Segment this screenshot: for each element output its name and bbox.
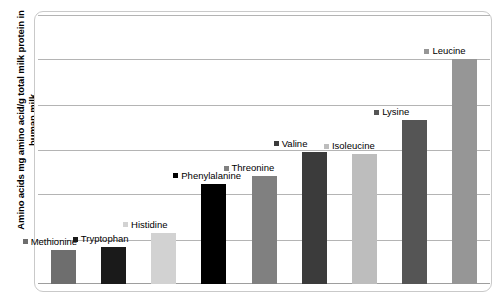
bar-leucine[interactable] (452, 59, 477, 284)
bar-label-text: Lysine (382, 107, 409, 117)
bar-label-leucine: Leucine (424, 46, 465, 56)
bar-label-lysine: Lysine (374, 107, 409, 117)
legend-swatch-icon (274, 141, 279, 146)
bar-label-histidine: Histidine (123, 220, 167, 230)
legend-swatch-icon (73, 237, 78, 242)
bar-label-isoleucine: Isoleucine (324, 141, 375, 151)
gridline (38, 59, 490, 60)
legend-swatch-icon (23, 239, 28, 244)
plot-area: MethionineTryptophanHistidinePhenylalani… (38, 15, 490, 284)
bar-label-text: Threonine (232, 163, 275, 173)
bar-phenylalanine[interactable] (201, 184, 226, 284)
bar-label-text: Leucine (432, 46, 465, 56)
bar-label-threonine: Threonine (224, 163, 275, 173)
bar-isoleucine[interactable] (352, 154, 377, 284)
gridline (38, 105, 490, 106)
chart-screenshot: Amino acids mg amino acid/g total milk p… (0, 0, 497, 302)
bar-label-valine: Valine (274, 139, 308, 149)
bar-label-text: Valine (282, 139, 308, 149)
bar-label-text: Tryptophan (81, 234, 129, 244)
legend-swatch-icon (324, 144, 329, 149)
gridline (38, 15, 490, 16)
bar-label-text: Methionine (31, 237, 77, 247)
bar-tryptophan[interactable] (101, 247, 126, 284)
bar-lysine[interactable] (402, 120, 427, 284)
bar-threonine[interactable] (252, 176, 277, 284)
bar-histidine[interactable] (151, 233, 176, 284)
legend-swatch-icon (424, 49, 429, 54)
bar-label-text: Isoleucine (332, 141, 375, 151)
bar-label-tryptophan: Tryptophan (73, 234, 129, 244)
bar-methionine[interactable] (51, 250, 76, 284)
legend-swatch-icon (123, 222, 128, 227)
bar-label-methionine: Methionine (23, 237, 77, 247)
legend-swatch-icon (173, 173, 178, 178)
bar-valine[interactable] (302, 152, 327, 284)
legend-swatch-icon (224, 166, 229, 171)
bar-label-text: Histidine (131, 220, 167, 230)
legend-swatch-icon (374, 110, 379, 115)
